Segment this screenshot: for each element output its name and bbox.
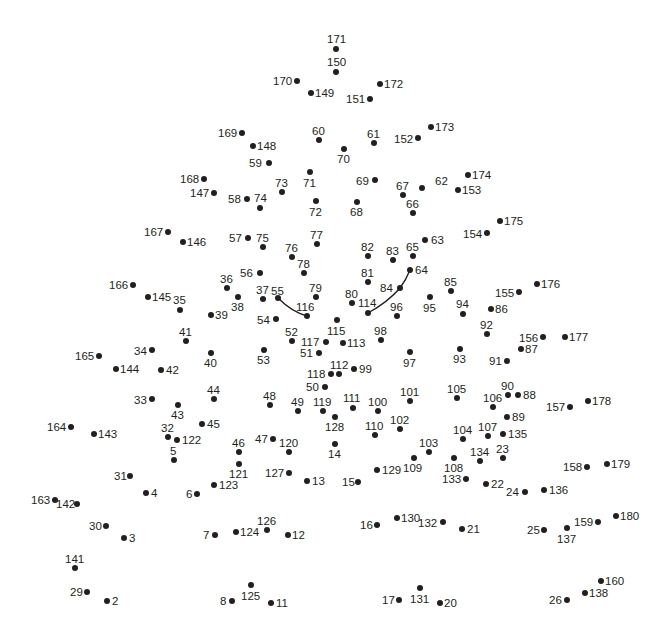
dot-label: 64 xyxy=(415,264,428,276)
dot-91 xyxy=(504,358,510,364)
dot-label: 45 xyxy=(207,418,220,430)
dot-label: 116 xyxy=(296,301,314,313)
dot-label: 15 xyxy=(342,476,355,488)
dot-to-dot-puzzle: 1711501701491721511691486070611521735971… xyxy=(0,0,669,644)
dot-label: 38 xyxy=(231,301,244,313)
dot-label: 165 xyxy=(75,350,94,362)
dot-99 xyxy=(351,366,357,372)
dot-label: 62 xyxy=(435,175,448,187)
dot-34 xyxy=(149,347,155,353)
dot-94 xyxy=(460,311,466,317)
dot-label: 107 xyxy=(478,421,497,433)
dot-172 xyxy=(377,81,383,87)
dot-171 xyxy=(333,46,339,52)
dot-14 xyxy=(332,441,338,447)
dot-label: 37 xyxy=(256,284,269,296)
dot-93 xyxy=(457,346,463,352)
dot-85 xyxy=(448,288,454,294)
dot-174 xyxy=(465,172,471,178)
dot-84 xyxy=(397,285,403,291)
dot-52 xyxy=(289,338,295,344)
dot-20 xyxy=(437,600,443,606)
dot-label: 67 xyxy=(396,180,409,192)
dot-170 xyxy=(294,78,300,84)
dot-label: 70 xyxy=(337,153,350,165)
dot-label: 36 xyxy=(220,273,233,285)
dot-label: 146 xyxy=(187,236,206,248)
dot-137 xyxy=(564,525,570,531)
dot-label: 171 xyxy=(327,33,346,45)
dot-57 xyxy=(245,235,251,241)
dot-label: 180 xyxy=(620,510,639,522)
dot-label: 35 xyxy=(173,294,186,306)
dot-53 xyxy=(261,347,267,353)
dot-24 xyxy=(522,489,528,495)
dot-label: 21 xyxy=(467,523,480,535)
dot-label: 7 xyxy=(203,529,209,541)
dot-label: 178 xyxy=(592,395,611,407)
dot-label: 166 xyxy=(109,279,128,291)
dot-label: 73 xyxy=(275,177,288,189)
dot-label: 87 xyxy=(525,343,538,355)
dot-77 xyxy=(314,241,320,247)
dot-58 xyxy=(244,196,250,202)
dot-86 xyxy=(488,306,494,312)
dot-125 xyxy=(248,582,254,588)
dot-label: 124 xyxy=(240,526,259,538)
dot-63 xyxy=(422,237,428,243)
dot-178 xyxy=(585,398,591,404)
dot-label: 94 xyxy=(456,298,469,310)
dot-label: 128 xyxy=(325,421,344,433)
dot-62 xyxy=(419,185,425,191)
dot-label: 158 xyxy=(563,461,582,473)
dot-59 xyxy=(266,160,272,166)
dot-76 xyxy=(289,254,295,260)
dot-label: 65 xyxy=(406,241,419,253)
dot-75 xyxy=(260,244,266,250)
dot-label: 172 xyxy=(384,78,403,90)
dot-95 xyxy=(427,294,433,300)
dot-label: 75 xyxy=(256,232,269,244)
dot-6 xyxy=(194,491,200,497)
dot-124 xyxy=(233,529,239,535)
dot-label: 169 xyxy=(218,127,237,139)
dot-47 xyxy=(270,436,276,442)
dot-label: 79 xyxy=(309,282,322,294)
dot-23 xyxy=(500,455,506,461)
dot-label: 142 xyxy=(56,498,75,510)
dot-label: 126 xyxy=(257,515,276,527)
dot-132 xyxy=(440,519,446,525)
dot-label: 129 xyxy=(382,464,401,476)
dot-label: 141 xyxy=(65,553,84,565)
dot-66 xyxy=(410,210,416,216)
dot-label: 16 xyxy=(360,519,373,531)
dot-168 xyxy=(201,176,207,182)
dot-label: 91 xyxy=(489,355,502,367)
dot-167 xyxy=(165,229,171,235)
dot-label: 174 xyxy=(472,169,491,181)
dot-label: 82 xyxy=(361,241,374,253)
dot-54 xyxy=(273,316,279,322)
dot-label: 68 xyxy=(350,206,363,218)
dot-label: 131 xyxy=(410,593,429,605)
dot-label: 132 xyxy=(418,517,437,529)
dot-109 xyxy=(411,455,417,461)
dot-107 xyxy=(485,433,491,439)
dot-label: 154 xyxy=(463,228,482,240)
dot-173 xyxy=(428,124,434,130)
dot-label: 120 xyxy=(279,437,298,449)
dot-label: 11 xyxy=(276,597,288,609)
dot-label: 167 xyxy=(144,226,163,238)
dot-121 xyxy=(236,461,242,467)
dot-96 xyxy=(394,313,400,319)
dot-label: 173 xyxy=(435,121,454,133)
dot-156 xyxy=(540,334,546,340)
dot-36 xyxy=(224,285,230,291)
dot-111 xyxy=(350,405,356,411)
dot-label: 71 xyxy=(303,177,316,189)
dot-2 xyxy=(104,598,110,604)
dot-label: 144 xyxy=(120,363,139,375)
dot-106 xyxy=(490,404,496,410)
dot-32 xyxy=(165,434,171,440)
dot-label: 179 xyxy=(611,458,630,470)
